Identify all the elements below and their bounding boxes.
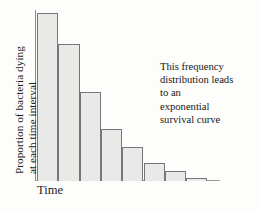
bar-3 (80, 92, 101, 181)
y-axis-label-line-1: Proportion of bacteria dying (13, 46, 25, 174)
chart-annotation: This frequencydistribution leadsto anexp… (160, 60, 256, 126)
bar-5 (122, 147, 143, 181)
x-axis-label: Time (37, 183, 63, 198)
y-axis-label: Proportion of bacteria dying at each tim… (0, 0, 34, 181)
annotation-line-3: to an (160, 86, 256, 99)
bar-2 (58, 44, 79, 181)
bar-4 (101, 129, 122, 181)
annotation-line-1: This frequency (160, 60, 256, 73)
bar-7 (165, 171, 186, 181)
annotation-line-5: survival curve (160, 113, 256, 126)
bar-8 (186, 178, 207, 181)
exponential-survival-bar-chart: Proportion of bacteria dying at each tim… (0, 0, 259, 210)
bar-6 (144, 163, 165, 181)
bar-1 (37, 13, 58, 181)
annotation-line-2: distribution leads (160, 73, 256, 86)
annotation-line-4: exponential (160, 100, 256, 113)
